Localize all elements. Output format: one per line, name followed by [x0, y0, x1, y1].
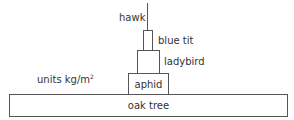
aphid-bar: aphid [128, 73, 169, 95]
units-label: units kg/m2 [37, 73, 94, 85]
hawk-label: hawk [119, 12, 145, 23]
oak-tree-label: oak tree [128, 100, 169, 111]
oak-tree-bar: oak tree [9, 94, 288, 117]
blue-tit-bar [143, 30, 153, 51]
ladybird-bar [137, 50, 160, 74]
aphid-label: aphid [135, 79, 163, 90]
hawk-bar [147, 3, 148, 31]
ladybird-label: ladybird [164, 56, 205, 67]
blue-tit-label: blue tit [158, 35, 193, 46]
